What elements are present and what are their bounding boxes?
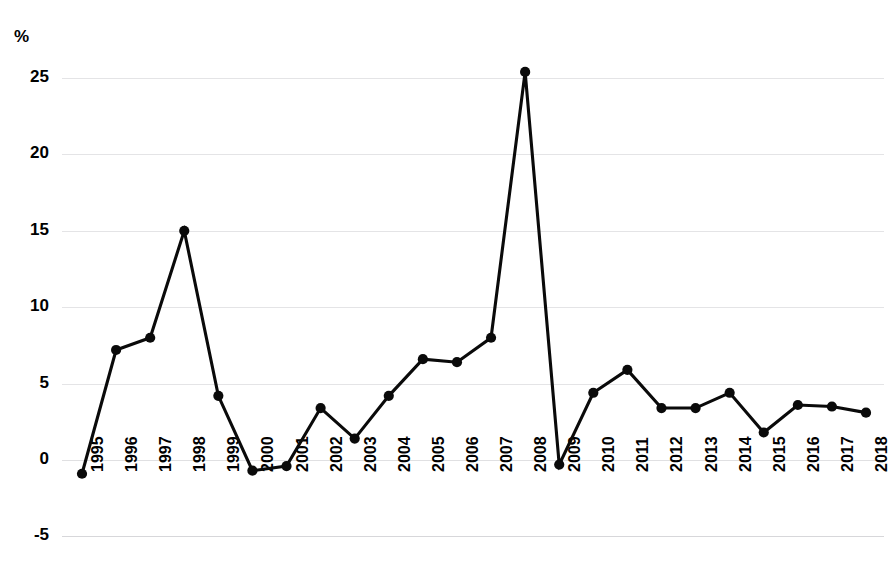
line-chart: % -50510152025 1995199619971998199920002… [0, 0, 890, 572]
cropped-caption [560, 562, 890, 572]
x-tick-label: 2012 [668, 436, 686, 472]
plot-area [0, 0, 890, 572]
gridline--5 [62, 536, 884, 537]
gridline-10 [62, 307, 884, 308]
x-tick-label: 1995 [89, 436, 107, 472]
y-axis-unit-label: % [14, 27, 29, 47]
x-tick-label: 1996 [123, 436, 141, 472]
data-point-2015 [759, 427, 769, 437]
x-tick-label: 2015 [771, 436, 789, 472]
y-tick-label: 5 [5, 373, 49, 393]
gridline-5 [62, 384, 884, 385]
data-point-2003 [350, 434, 360, 444]
x-tick-label: 2007 [498, 436, 516, 472]
data-point-2012 [656, 403, 666, 413]
x-tick-label: 1998 [191, 436, 209, 472]
x-tick-label: 2013 [703, 436, 721, 472]
data-point-2000 [247, 466, 257, 476]
y-tick-label: 15 [5, 220, 49, 240]
x-tick-label: 2011 [634, 437, 652, 472]
data-point-2016 [793, 400, 803, 410]
x-tick-label: 2010 [600, 436, 618, 472]
gridline-25 [62, 78, 884, 79]
x-tick-label: 2005 [430, 436, 448, 472]
data-point-2009 [554, 459, 564, 469]
y-tick-label: 25 [5, 67, 49, 87]
gridline-15 [62, 231, 884, 232]
data-point-2002 [316, 403, 326, 413]
x-tick-label: 1999 [225, 436, 243, 472]
x-tick-label: 2000 [259, 436, 277, 472]
data-point-1996 [111, 345, 121, 355]
y-tick-label: 0 [5, 449, 49, 469]
data-point-2014 [725, 388, 735, 398]
x-tick-label: 2018 [873, 436, 890, 472]
data-point-1999 [213, 391, 223, 401]
x-tick-label: 2006 [464, 436, 482, 472]
x-tick-label: 2017 [839, 436, 857, 472]
data-point-2011 [622, 365, 632, 375]
x-tick-label: 2008 [532, 436, 550, 472]
data-point-2018 [861, 408, 871, 418]
data-series-line [82, 72, 866, 474]
data-point-1997 [145, 333, 155, 343]
x-tick-label: 2009 [566, 436, 584, 472]
data-point-markers [77, 67, 871, 479]
x-tick-label: 2001 [294, 436, 312, 472]
y-tick-label: 20 [5, 143, 49, 163]
data-point-1995 [77, 469, 87, 479]
data-point-2004 [384, 391, 394, 401]
data-point-2005 [418, 354, 428, 364]
data-point-2001 [281, 461, 291, 471]
y-tick-label: -5 [5, 525, 49, 545]
x-tick-label: 2016 [805, 436, 823, 472]
data-point-2010 [588, 388, 598, 398]
data-point-2017 [827, 401, 837, 411]
data-point-2006 [452, 357, 462, 367]
gridline-20 [62, 154, 884, 155]
data-point-2008 [520, 67, 530, 77]
x-tick-label: 2003 [362, 436, 380, 472]
x-tick-label: 2014 [737, 436, 755, 472]
data-point-2013 [690, 403, 700, 413]
y-tick-label: 10 [5, 296, 49, 316]
x-tick-label: 2002 [328, 436, 346, 472]
data-point-2007 [486, 333, 496, 343]
x-tick-label: 2004 [396, 436, 414, 472]
x-tick-label: 1997 [157, 436, 175, 472]
